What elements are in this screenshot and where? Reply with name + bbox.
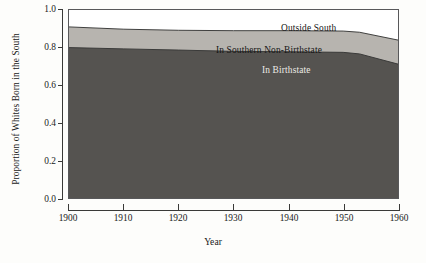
x-tick-mark-1950 [344,204,345,211]
y-tick-label-3: 0.6 [30,81,56,90]
y-axis-title: Proportion of Whites Born in the South [11,9,21,209]
x-tick-mark-1920 [178,204,179,211]
stacked-area-svg [69,10,398,198]
x-tick-label-1930: 1930 [213,213,253,223]
series-label-in-birthstate: In Birthstate [262,65,311,75]
series-label-outside-south: Outside South [281,23,336,33]
y-tick-mark-3 [58,85,63,86]
area-in-birthstate [69,48,398,198]
y-tick-label-6: 0.0 [30,195,56,204]
y-tick-label-5: 0.2 [30,157,56,166]
y-tick-mark-2 [58,47,63,48]
x-tick-mark-1900 [68,204,69,211]
y-tick-label-4: 0.4 [30,119,56,128]
x-axis-title: Year [0,236,426,247]
x-tick-mark-1960 [399,204,400,211]
y-axis-line [62,9,63,199]
x-tick-mark-1940 [289,204,290,211]
x-tick-label-1910: 1910 [103,213,143,223]
x-tick-mark-1930 [233,204,234,211]
y-tick-label-2: 0.8 [30,43,56,52]
x-tick-mark-1910 [123,204,124,211]
x-tick-label-1960: 1960 [379,213,419,223]
figure-stacked-area-chart: Proportion of Whites Born in the South 1… [0,0,426,263]
y-tick-label-1: 1.0 [30,5,56,14]
y-tick-mark-1 [58,9,63,10]
series-label-in-southern-non-birthstate: In Southern Non-Birthstate [216,45,322,55]
y-tick-mark-4 [58,123,63,124]
x-tick-label-1950: 1950 [324,213,364,223]
x-tick-label-1940: 1940 [269,213,309,223]
y-tick-mark-6 [58,199,63,200]
plot-area: Outside South In Southern Non-Birthstate… [68,9,399,199]
x-tick-label-1900: 1900 [48,213,88,223]
x-tick-label-1920: 1920 [158,213,198,223]
y-tick-mark-5 [58,161,63,162]
